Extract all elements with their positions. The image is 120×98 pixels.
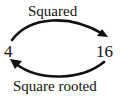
square-rooted-label: Square rooted [13,79,97,94]
square-rooted-arrow-icon [10,59,104,77]
squared-arrow-icon [12,20,108,40]
